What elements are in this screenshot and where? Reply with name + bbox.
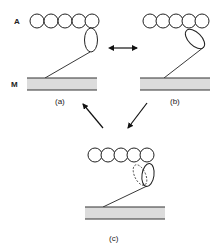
actin-bead — [156, 14, 170, 28]
membrane-fill — [140, 78, 210, 90]
actin-label: A — [14, 17, 20, 26]
diagram: A M (a) — [0, 0, 219, 252]
actin-bead — [140, 148, 154, 162]
panel-a: (a) — [27, 14, 99, 106]
myosin-head — [85, 28, 98, 52]
panel-b: (b) — [140, 14, 210, 106]
panel-caption: (a) — [55, 97, 65, 106]
lever-arm — [103, 186, 147, 207]
actin-bead — [58, 14, 72, 28]
arrow-b-to-c — [128, 103, 147, 128]
actin-bead — [182, 14, 196, 28]
actin-bead — [127, 148, 141, 162]
diagram-svg: A M (a) — [0, 0, 219, 252]
membrane-label: M — [11, 80, 18, 89]
arrow-c-to-a — [83, 104, 103, 128]
actin-filament — [30, 14, 99, 28]
panel-caption: (c) — [109, 234, 119, 243]
actin-bead — [169, 14, 183, 28]
actin-filament — [88, 148, 154, 162]
myosin-head-alternate — [130, 163, 149, 188]
lever-arm — [45, 52, 90, 78]
membrane-fill — [27, 78, 97, 90]
actin-bead — [72, 14, 86, 28]
actin-filament — [143, 14, 209, 28]
membrane-fill — [85, 207, 165, 219]
actin-bead — [44, 14, 58, 28]
lever-arm — [164, 47, 204, 78]
actin-bead — [85, 14, 99, 28]
actin-bead — [88, 148, 102, 162]
membrane — [140, 78, 210, 90]
actin-bead — [195, 14, 209, 28]
actin-bead — [114, 148, 128, 162]
actin-bead — [101, 148, 115, 162]
myosin-head — [182, 26, 208, 52]
actin-bead — [30, 14, 44, 28]
myosin-head — [140, 163, 155, 187]
panel-c: (c) — [85, 148, 165, 243]
membrane — [27, 78, 97, 90]
actin-bead — [143, 14, 157, 28]
membrane — [85, 207, 165, 219]
panel-caption: (b) — [170, 97, 180, 106]
